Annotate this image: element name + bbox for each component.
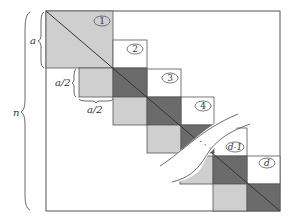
- svg-text:3: 3: [167, 73, 173, 83]
- dark-block: [213, 156, 247, 184]
- light-block: [147, 125, 181, 153]
- block-3-outline: [147, 69, 181, 97]
- block-2-outline: [113, 40, 147, 68]
- light-block: [213, 184, 247, 211]
- light-block: [113, 97, 147, 125]
- block-4-outline: [181, 97, 214, 125]
- label-a: a: [30, 35, 36, 46]
- svg-text:2: 2: [132, 44, 138, 54]
- label-a-half-horizontal: a/2: [87, 104, 103, 115]
- brace-n: [21, 12, 30, 210]
- brace-a: [38, 12, 44, 68]
- light-block: [79, 68, 113, 97]
- svg-text:4: 4: [200, 101, 206, 111]
- svg-text:d: d: [264, 158, 270, 168]
- svg-text:d-1: d-1: [228, 142, 243, 152]
- label-a-half-vertical: a/2: [55, 77, 71, 88]
- label-n: n: [13, 107, 19, 118]
- svg-text:1: 1: [99, 16, 105, 26]
- label-d-1: d-1: [226, 142, 244, 152]
- block-matrix-diagram: · · · 1 2 3 4 d-1 d n a a/2 a/2: [0, 0, 297, 223]
